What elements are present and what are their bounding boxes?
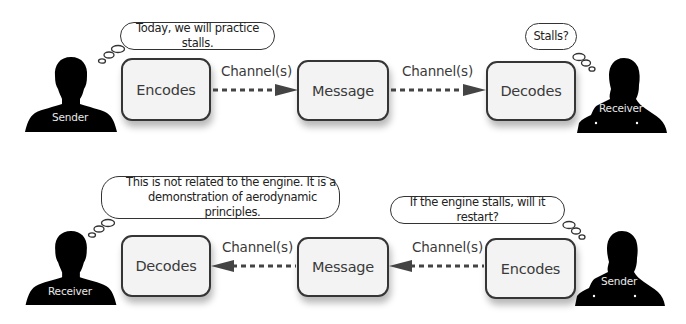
decodes-box: Decodes [121,235,211,297]
encodes-box: Encodes [485,238,576,299]
message-box: Message [297,60,389,121]
channel-label: Channel(s) [221,63,292,79]
receiver-silhouette-icon [576,57,668,133]
channel-label: Channel(s) [222,239,293,255]
encodes-label: Encodes [501,261,560,277]
sender-bubble-text: If the engine stalls, will it restart? [391,195,564,225]
receiver-label: Receiver [599,102,643,114]
message-label: Message [312,83,374,99]
channel-label: Channel(s) [412,239,483,255]
decodes-label: Decodes [500,83,561,99]
sender-speech-bubble: If the engine stalls, will it restart? [390,196,565,224]
encodes-box: Encodes [121,58,211,121]
sender-speech-bubble: Today, we will practice stalls. [120,22,275,50]
decodes-label: Decodes [135,258,196,274]
message-box: Message [297,237,389,297]
receiver-bubble-line-1: This is not related to the engine. It is… [126,175,336,190]
sender-label: Sender [52,111,88,123]
message-label: Message [312,259,374,275]
receiver-label: Receiver [48,285,92,297]
encodes-label: Encodes [136,82,195,98]
receiver-speech-bubble: Stalls? [525,23,577,50]
thought-bubble-icon [86,218,116,242]
receiver-bubble-line-2: demonstration of aerodynamic principles. [126,190,339,220]
sender-bubble-text: Today, we will practice stalls. [121,21,274,51]
dashed-arrow-right-icon [211,82,299,98]
sender-silhouette-icon [574,230,666,306]
receiver-speech-bubble: This is not related to the engine. It is… [101,176,340,219]
dashed-arrow-right-icon [389,82,487,98]
receiver-bubble-text: Stalls? [533,29,568,44]
dashed-arrow-left-icon [210,258,298,274]
dashed-arrow-left-icon [388,258,486,274]
sender-label: Sender [601,275,637,287]
channel-label: Channel(s) [402,63,473,79]
decodes-box: Decodes [486,61,576,121]
